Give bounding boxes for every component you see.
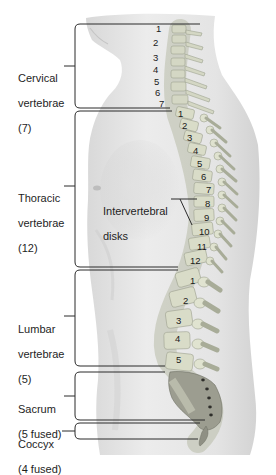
thoracic-subtitle: vertebrae xyxy=(18,217,64,229)
l2-number: 2 xyxy=(183,296,188,306)
t2-number: 2 xyxy=(182,121,187,131)
lumbar-label: Lumbar vertebrae (5) xyxy=(18,310,64,385)
l3-number: 3 xyxy=(176,316,181,326)
t3-number: 3 xyxy=(187,133,192,143)
coccyx-name: Coccyx xyxy=(18,438,54,450)
cervical-label: Cervical vertebrae (7) xyxy=(18,59,64,134)
callout-line1: Intervertebral xyxy=(103,205,168,217)
callout-line2: disks xyxy=(103,230,128,242)
l5-number: 5 xyxy=(176,355,181,365)
c4-number: 4 xyxy=(153,65,158,75)
t6-number: 6 xyxy=(201,172,206,182)
t8-number: 8 xyxy=(205,199,210,209)
t11-number: 11 xyxy=(197,242,207,252)
cervical-subtitle: vertebrae xyxy=(18,97,64,109)
lumbar-count: (5) xyxy=(18,373,31,385)
lumbar-subtitle: vertebrae xyxy=(18,348,64,360)
sacrum-name: Sacrum xyxy=(18,403,56,415)
t7-number: 7 xyxy=(206,185,211,195)
thoracic-count: (12) xyxy=(18,242,38,254)
thoracic-name: Thoracic xyxy=(18,192,60,204)
c2-number: 2 xyxy=(153,38,158,48)
cervical-name: Cervical xyxy=(18,72,58,84)
coccyx-subtitle: (4 fused) xyxy=(18,463,61,475)
c7-number: 7 xyxy=(159,99,164,109)
lumbar-name: Lumbar xyxy=(18,323,55,335)
t5-number: 5 xyxy=(197,159,202,169)
l4-number: 4 xyxy=(175,334,180,344)
c6-number: 6 xyxy=(155,88,160,98)
coccyx-label: Coccyx (4 fused) xyxy=(18,425,61,475)
nipple xyxy=(93,186,101,191)
t1-number: 1 xyxy=(178,109,183,119)
c5-number: 5 xyxy=(154,77,159,87)
c3-number: 3 xyxy=(153,53,158,63)
cervical-count: (7) xyxy=(18,122,31,134)
intervertebral-disks-label: Intervertebral disks xyxy=(103,192,168,242)
thoracic-label: Thoracic vertebrae (12) xyxy=(18,179,64,254)
t12-number: 12 xyxy=(190,256,201,266)
t4-number: 4 xyxy=(193,146,198,156)
l1-number: 1 xyxy=(190,276,195,286)
c1-number: 1 xyxy=(156,24,161,34)
t9-number: 9 xyxy=(204,213,209,223)
t10-number: 10 xyxy=(199,227,210,237)
